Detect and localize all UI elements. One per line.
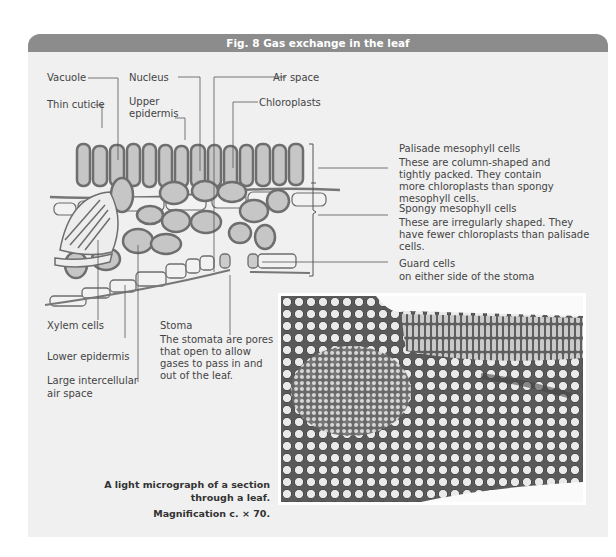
guard-cells-title: Guard cells — [399, 258, 455, 270]
guard-cells-description: on either side of the stoma — [399, 271, 534, 283]
micrograph-magnification: Magnification c. × 70. — [100, 507, 270, 520]
label-upper-epidermis-line1: Upper — [129, 96, 159, 108]
spongy-description: These are irregularly shaped. They have … — [399, 217, 599, 253]
label-lower-epidermis: Lower epidermis — [47, 351, 130, 363]
label-nucleus: Nucleus — [129, 72, 169, 84]
label-large-air-space-line1: Large intercellular — [47, 375, 138, 387]
label-vacuole: Vacuole — [47, 72, 86, 84]
spongy-title: Spongy mesophyll cells — [399, 203, 517, 215]
label-large-air-space-line2: air space — [47, 388, 93, 400]
micrograph-caption-line2: through a leaf. — [100, 491, 270, 504]
label-stoma: Stoma — [160, 320, 192, 332]
stoma-description: The stomata are pores that open to allow… — [160, 334, 278, 382]
palisade-description: These are column-shaped and tightly pack… — [399, 157, 569, 205]
label-thin-cuticle: Thin cuticle — [47, 99, 105, 111]
label-upper-epidermis-line2: epidermis — [129, 108, 178, 120]
label-chloroplasts: Chloroplasts — [259, 97, 321, 109]
palisade-title: Palisade mesophyll cells — [399, 143, 520, 155]
label-xylem-cells: Xylem cells — [47, 320, 104, 332]
label-air-space: Air space — [273, 72, 319, 84]
light-micrograph-image — [278, 293, 586, 505]
micrograph-cells-texture — [281, 296, 583, 502]
micrograph-caption-line1: A light micrograph of a section — [100, 478, 270, 491]
